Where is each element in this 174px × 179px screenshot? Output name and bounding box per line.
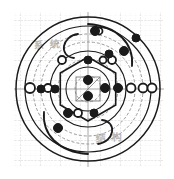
node-filled-n14 — [51, 85, 59, 93]
node-open-o05 — [139, 84, 148, 93]
node-filled-n03 — [120, 47, 129, 56]
node-filled-n11 — [90, 109, 98, 117]
node-open-o09 — [74, 109, 82, 117]
node-filled-n09 — [84, 92, 93, 101]
diagram-canvas: 系 统 结 构 — [0, 0, 174, 179]
node-open-o06 — [148, 84, 157, 93]
node-filled-n07 — [101, 84, 110, 93]
node-filled-n02 — [105, 50, 113, 58]
node-filled-n06 — [114, 84, 123, 93]
node-open-o04 — [127, 84, 136, 93]
node-filled-n01 — [84, 56, 92, 64]
node-filled-n13 — [37, 85, 45, 93]
node-open-o02 — [58, 56, 66, 64]
node-filled-n05 — [91, 27, 100, 36]
node-open-o10 — [100, 57, 107, 64]
node-filled-n08 — [84, 76, 93, 85]
node-filled-n10 — [64, 109, 73, 118]
node-open-o07 — [25, 83, 35, 93]
node-filled-n04 — [132, 34, 140, 42]
schematic-artwork — [0, 0, 174, 179]
node-filled-n12 — [54, 124, 63, 133]
